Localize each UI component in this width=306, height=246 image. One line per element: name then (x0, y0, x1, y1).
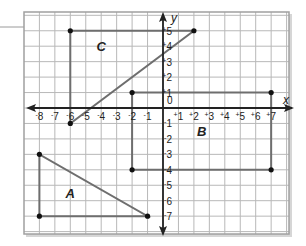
vertex-point (269, 167, 274, 172)
shape-label-c: C (97, 39, 107, 54)
shape-label-a: A (65, 186, 75, 201)
vertex-point (37, 152, 42, 157)
origin-label: 0 (167, 95, 173, 106)
vertex-point (269, 90, 274, 95)
shape-label-b: B (197, 124, 206, 139)
vertex-point (130, 90, 135, 95)
vertex-point (130, 167, 135, 172)
vertex-point (191, 28, 196, 33)
vertex-point (145, 214, 150, 219)
vertex-point (68, 28, 73, 33)
x-axis-label: x (282, 93, 290, 107)
coordinate-grid-diagram: -8-7-6-5-4-3-2-1+1+2+3+4+5+6+7+5+4+3+2+1… (0, 0, 306, 246)
vertex-point (37, 214, 42, 219)
y-axis-label: y (170, 11, 178, 25)
